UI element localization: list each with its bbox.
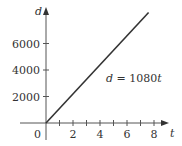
x-tick-label: 4 bbox=[97, 128, 104, 141]
data-line bbox=[46, 13, 149, 124]
annotation-eq: = 1080 bbox=[113, 72, 157, 85]
x-axis-label: t bbox=[170, 127, 175, 140]
x-axis-arrow-icon bbox=[161, 120, 169, 126]
x-tick-label: 6 bbox=[124, 128, 131, 141]
chart: 2 4 6 8 0 2000 4000 6000 t d d = 1080t bbox=[0, 0, 182, 146]
y-axis-label: d bbox=[35, 5, 42, 18]
origin-label: 0 bbox=[34, 128, 41, 141]
x-tick-label: 2 bbox=[70, 128, 77, 141]
y-tick-label: 2000 bbox=[12, 91, 40, 104]
x-tick-label: 8 bbox=[151, 128, 158, 141]
y-tick-label: 6000 bbox=[12, 38, 40, 51]
annotation-t: t bbox=[157, 72, 162, 85]
y-axis-arrow-icon bbox=[43, 7, 49, 15]
line-equation-annotation: d = 1080t bbox=[106, 72, 162, 85]
annotation-var: d bbox=[106, 72, 113, 85]
y-tick-label: 4000 bbox=[12, 64, 40, 77]
